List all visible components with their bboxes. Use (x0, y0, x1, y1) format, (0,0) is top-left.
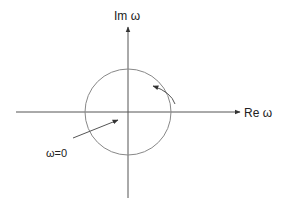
complex-plane-diagram: Im ω Re ω ω=0 (0, 0, 288, 208)
real-axis-label: Re ω (244, 106, 272, 120)
origin-label: ω=0 (46, 147, 67, 159)
imaginary-axis-label: Im ω (114, 9, 140, 23)
origin-pointer-arrow (73, 120, 118, 138)
